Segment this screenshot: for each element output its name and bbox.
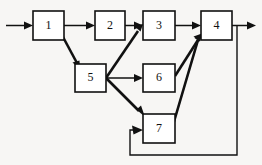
node-1-label: 1 xyxy=(46,18,52,32)
diagram-canvas: 1 2 3 4 5 6 7 xyxy=(0,0,262,165)
node-5[interactable]: 5 xyxy=(75,64,106,92)
edge-3-to-4 xyxy=(175,22,201,30)
edge-5-to-7-line xyxy=(106,78,139,111)
edge-4-to-output xyxy=(232,22,256,30)
edge-1-to-5-line xyxy=(63,37,78,64)
edge-1-to-2-arrowhead xyxy=(86,22,95,30)
edge-1-to-2 xyxy=(64,22,95,30)
node-7[interactable]: 7 xyxy=(143,114,175,143)
edge-6-to-4-line xyxy=(175,40,198,76)
edge-5-to-6 xyxy=(106,74,143,82)
edge-5-to-6-arrowhead xyxy=(134,74,143,82)
node-2-label: 2 xyxy=(107,18,113,32)
node-5-label: 5 xyxy=(88,70,94,84)
node-1[interactable]: 1 xyxy=(33,11,64,40)
node-2[interactable]: 2 xyxy=(95,11,125,40)
node-3[interactable]: 3 xyxy=(143,11,175,40)
node-3-label: 3 xyxy=(156,18,162,32)
edge-input-to-1 xyxy=(6,22,33,30)
edge-5-to-7 xyxy=(106,78,145,117)
node-7-label: 7 xyxy=(156,121,162,135)
flow-diagram: 1 2 3 4 5 6 7 xyxy=(0,0,262,165)
node-4-label: 4 xyxy=(214,18,220,32)
edge-7-to-4 xyxy=(173,34,202,126)
edge-4-to-output-arrowhead xyxy=(247,22,256,30)
node-6[interactable]: 6 xyxy=(143,64,175,92)
edge-7-to-4-line xyxy=(173,40,198,125)
edge-input-to-1-arrowhead xyxy=(24,22,33,30)
edge-3-to-4-arrowhead xyxy=(192,22,201,30)
node-6-label: 6 xyxy=(156,70,162,84)
edge-feedback-4-to-7-arrowhead xyxy=(132,126,143,135)
node-4[interactable]: 4 xyxy=(201,11,232,40)
